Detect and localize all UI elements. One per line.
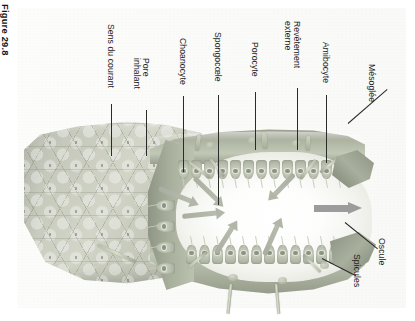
choanocyte [156, 200, 175, 211]
label-sens-du-courant: Sens du courant [106, 24, 115, 88]
amoebocyte [278, 277, 287, 284]
leader-line-amibocyte [326, 95, 327, 163]
label-mesoglee: Mésoglée [367, 64, 376, 102]
label-oscule: Oscule [377, 238, 386, 265]
choanocyte [156, 263, 175, 274]
choanocyte [243, 160, 254, 179]
label-revetement-externe-line1: Revêtement [292, 21, 301, 68]
label-revetement-externe-line2: externe [283, 21, 292, 50]
figure-page: Figure 29.8 Sens du courant Pore inhalan… [0, 0, 415, 321]
choanocyte [156, 221, 175, 232]
label-spongocoele: Spongocœle [213, 32, 222, 82]
choanocyte [277, 245, 288, 264]
leader-line-pore-inhalant [146, 110, 147, 156]
figure-number: Figure 29.8 [0, 4, 11, 56]
label-choanocyte: Choanocyte [178, 38, 187, 85]
choanocyte [256, 160, 267, 179]
big-arrow-right-icon [314, 202, 364, 215]
choanocyte [230, 160, 241, 179]
choanocyte [251, 245, 262, 264]
choanocyte [225, 245, 236, 264]
label-spicules: Spicules [352, 254, 361, 287]
leader-line-spongocoele [218, 95, 219, 205]
choanocyte [290, 245, 301, 264]
amoebocyte [206, 142, 215, 149]
leader-line-choanocyte [183, 96, 184, 172]
label-pore-inhalant-line2: inhalant [132, 58, 141, 89]
choanocyte-row-left [160, 196, 171, 278]
label-pore-inhalant-line1: Pore [141, 58, 150, 77]
leader-line-revetement-externe [297, 88, 298, 150]
label-porocyte: Porocyte [250, 42, 259, 77]
choanocyte [156, 242, 175, 253]
leader-line-sens-du-courant [111, 104, 112, 156]
leader-line-porocyte [255, 92, 256, 150]
amoebocyte [320, 262, 329, 269]
amoebocyte [248, 137, 258, 144]
label-amibocyte: Amibocyte [321, 42, 330, 83]
amoebocyte [228, 274, 238, 281]
choanocyte [269, 160, 280, 179]
choanocyte [238, 245, 249, 264]
